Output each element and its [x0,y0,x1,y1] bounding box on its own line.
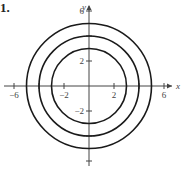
x-tick-label: 2 [112,90,117,100]
y-axis-label: y [81,2,86,12]
x-tick-label: −6 [9,90,19,100]
y-tick-label: 2 [80,56,85,66]
x-tick-label: −2 [59,90,69,100]
x-tick-label: 6 [162,90,167,100]
x-axis-arrow-icon [167,84,172,89]
x-axis-label: x [175,81,180,91]
concentric-circles-plot: −6−22662−2xy [0,0,181,171]
y-tick-label: −2 [74,106,84,116]
y-axis-arrow-icon [87,5,92,10]
